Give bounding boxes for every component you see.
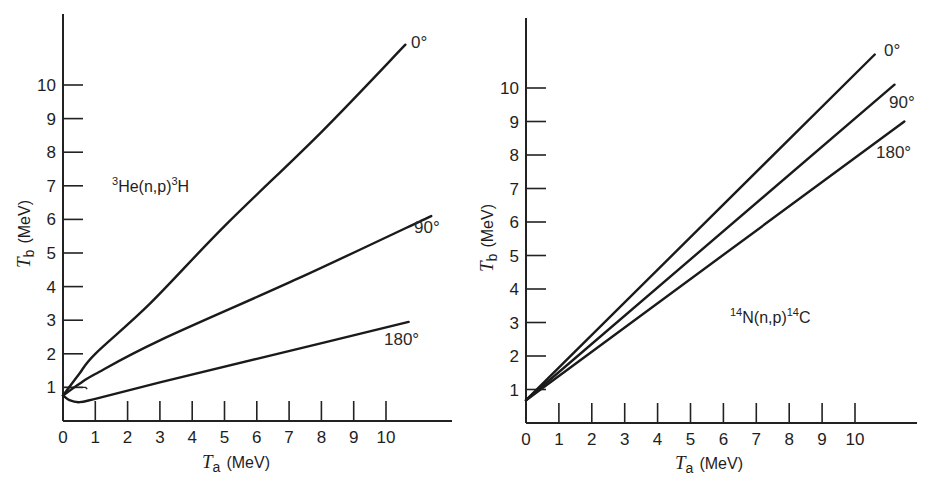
x-tick-label: 1 (91, 428, 100, 447)
x-axis-subscript: a (213, 459, 221, 475)
series-line-0deg (526, 55, 875, 401)
y-axis-subscript: b (484, 253, 500, 261)
x-tick-label: 6 (719, 430, 728, 449)
reaction-product: C (799, 309, 811, 326)
x-tick-label: 5 (686, 430, 695, 449)
x-tick-label: 0 (521, 430, 530, 449)
y-tick-label: 5 (510, 247, 519, 266)
y-axis-unit: (MeV) (16, 200, 33, 244)
mass-number-sup: 14 (787, 306, 799, 318)
y-tick-label: 9 (510, 113, 519, 132)
x-axis-label: Ta(MeV) (675, 452, 743, 476)
x-tick-label: 2 (587, 430, 596, 449)
x-tick-label: 10 (846, 430, 865, 449)
y-tick-label: 1 (47, 378, 56, 397)
x-tick-label: 4 (653, 430, 662, 449)
x-axis-label: Ta(MeV) (202, 451, 270, 475)
reaction-target: N(n,p) (742, 309, 786, 326)
y-tick-label: 2 (47, 345, 56, 364)
reaction-annotation: 14N(n,p)14C (730, 306, 811, 326)
x-tick-label: 5 (220, 428, 229, 447)
series-label: 180° (876, 143, 911, 162)
y-tick-label: 5 (47, 244, 56, 263)
y-tick-label: 7 (47, 177, 56, 196)
y-tick-label: 4 (47, 278, 56, 297)
x-tick-label: 2 (123, 428, 132, 447)
y-axis-label: Tb(MeV) (476, 204, 500, 272)
x-tick-label: 3 (155, 428, 164, 447)
y-axis-label: Tb(MeV) (13, 200, 37, 268)
x-tick-label: 1 (554, 430, 563, 449)
x-axis-unit: (MeV) (226, 454, 270, 471)
x-tick-label: 4 (187, 428, 196, 447)
series-line-90deg (526, 85, 894, 401)
reaction-product: H (178, 178, 190, 195)
x-tick-label: 8 (784, 430, 793, 449)
x-tick-label: 6 (252, 428, 261, 447)
y-tick-label: 8 (47, 143, 56, 162)
y-tick-label: 4 (510, 280, 519, 299)
chart-panel-2: 01234567891012345678910Ta(MeV)Tb(MeV)0°9… (476, 18, 917, 476)
y-tick-label: 3 (47, 311, 56, 330)
x-tick-label: 7 (284, 428, 293, 447)
x-tick-label: 3 (620, 430, 629, 449)
y-tick-label: 6 (47, 210, 56, 229)
y-tick-label: 2 (510, 347, 519, 366)
y-axis-unit: (MeV) (479, 204, 496, 248)
series-label: 0° (884, 41, 900, 60)
y-tick-label: 3 (510, 314, 519, 333)
x-tick-label: 9 (817, 430, 826, 449)
x-tick-label: 0 (58, 428, 67, 447)
y-tick-label: 9 (47, 110, 56, 129)
series-label: 90° (889, 93, 915, 112)
reaction-kinematics-figure: 01234567891012345678910Ta(MeV)Tb(MeV)0°9… (0, 0, 933, 487)
x-tick-label: 10 (377, 428, 396, 447)
y-axis-subscript: b (21, 249, 37, 257)
y-tick-label: 8 (510, 146, 519, 165)
x-tick-label: 9 (349, 428, 358, 447)
y-tick-label: 7 (510, 180, 519, 199)
mass-number-sup: 14 (730, 306, 742, 318)
x-axis-subscript: a (686, 460, 694, 476)
x-axis-unit: (MeV) (699, 455, 743, 472)
series-line-90deg (63, 216, 431, 395)
series-label: 180° (384, 330, 419, 349)
series-line-180deg (526, 122, 904, 401)
y-tick-label: 1 (510, 381, 519, 400)
x-tick-label: 8 (317, 428, 326, 447)
reaction-annotation: 3He(n,p)3H (112, 175, 189, 195)
y-tick-label: 10 (500, 79, 519, 98)
series-line-0deg (63, 45, 405, 396)
y-tick-label: 6 (510, 213, 519, 232)
series-label: 0° (411, 33, 427, 52)
y-tick-label: 10 (37, 76, 56, 95)
chart-panel-1: 01234567891012345678910Ta(MeV)Tb(MeV)0°9… (13, 14, 452, 475)
reaction-target: He(n,p) (118, 178, 171, 195)
x-tick-label: 7 (752, 430, 761, 449)
series-label: 90° (414, 218, 440, 237)
